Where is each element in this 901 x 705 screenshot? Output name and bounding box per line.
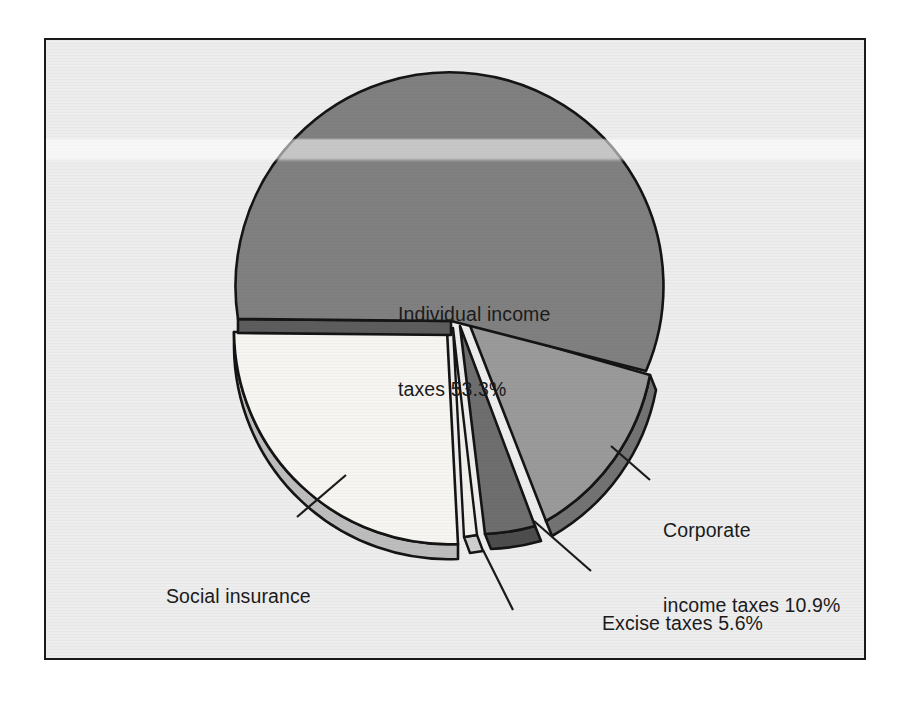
slice-label-estate-and-gift-taxes: Estate and gift taxes 1.0% (444, 618, 673, 660)
slice-label-line: taxes 53.3% (398, 377, 550, 402)
chart-frame: Individual income taxes 53.3% Corporate … (44, 38, 866, 660)
slice-label-line: taxes and (166, 659, 339, 660)
slice-label-line: Social insurance (166, 584, 339, 609)
slice-label-social-insurance: Social insurance taxes and contributions… (166, 534, 339, 660)
slice-label-individual-income-taxes: Individual income taxes 53.3% (398, 252, 550, 452)
slice-label-line: Corporate (663, 518, 840, 543)
slice-label-line: Individual income (398, 302, 550, 327)
leader-line-estate (483, 550, 513, 610)
